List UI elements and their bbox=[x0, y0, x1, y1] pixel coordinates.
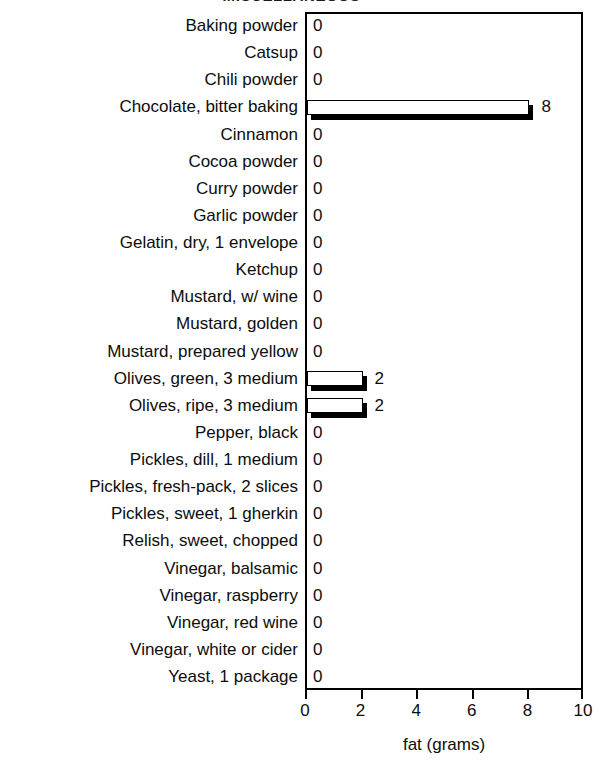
bar-value-label: 0 bbox=[313, 314, 322, 334]
bar-value-label: 0 bbox=[313, 233, 322, 253]
category-label: Mustard, prepared yellow bbox=[0, 342, 298, 362]
x-axis-tick bbox=[305, 690, 307, 699]
category-label: Pepper, black bbox=[0, 423, 298, 443]
bar-value-label: 0 bbox=[313, 586, 322, 606]
category-label: Vinegar, raspberry bbox=[0, 586, 298, 606]
category-label: Curry powder bbox=[0, 179, 298, 199]
bar-track bbox=[307, 93, 529, 121]
bar-row: Pickles, dill, 1 medium0 bbox=[0, 446, 615, 474]
bar-value-label: 0 bbox=[313, 206, 322, 226]
category-label: Olives, green, 3 medium bbox=[0, 369, 298, 389]
category-label: Vinegar, white or cider bbox=[0, 640, 298, 660]
bar-value-label: 0 bbox=[313, 640, 322, 660]
x-axis-title: fat (grams) bbox=[305, 735, 583, 755]
x-axis: 0246810 bbox=[305, 690, 583, 691]
x-axis-tick-label: 8 bbox=[523, 701, 532, 721]
bar-value-label: 0 bbox=[313, 260, 322, 280]
bar-track bbox=[307, 392, 363, 420]
x-axis-tick-label: 0 bbox=[300, 701, 309, 721]
bar-row: Pepper, black0 bbox=[0, 419, 615, 447]
bar-value-label: 0 bbox=[313, 667, 322, 687]
category-label: Cinnamon bbox=[0, 125, 298, 145]
bar-value-label: 0 bbox=[313, 613, 322, 633]
bar-value-label: 0 bbox=[313, 125, 322, 145]
bar-row: Vinegar, white or cider0 bbox=[0, 636, 615, 664]
x-axis-tick bbox=[416, 690, 418, 699]
bar-value-label: 0 bbox=[313, 531, 322, 551]
bar-value-label: 0 bbox=[313, 43, 322, 63]
bar-value-label: 0 bbox=[313, 450, 322, 470]
bar-value-label: 0 bbox=[313, 179, 322, 199]
bar-value-label: 0 bbox=[313, 423, 322, 443]
bar-value-label: 2 bbox=[375, 396, 384, 416]
category-label: Chili powder bbox=[0, 70, 298, 90]
bar bbox=[307, 371, 363, 386]
bar bbox=[307, 100, 529, 115]
bar-row: Vinegar, balsamic0 bbox=[0, 554, 615, 582]
category-label: Baking powder bbox=[0, 16, 298, 36]
category-label: Olives, ripe, 3 medium bbox=[0, 396, 298, 416]
bar-value-label: 2 bbox=[375, 369, 384, 389]
bar-value-label: 0 bbox=[313, 70, 322, 90]
x-axis-tick-label: 6 bbox=[467, 701, 476, 721]
bar-row: Catsup0 bbox=[0, 39, 615, 67]
bar-value-label: 0 bbox=[313, 16, 322, 36]
category-label: Cocoa powder bbox=[0, 152, 298, 172]
bar-value-label: 0 bbox=[313, 287, 322, 307]
category-label: Chocolate, bitter baking bbox=[0, 97, 298, 117]
x-axis-tick-label: 2 bbox=[356, 701, 365, 721]
category-label: Yeast, 1 package bbox=[0, 667, 298, 687]
x-axis-tick-label: 4 bbox=[411, 701, 420, 721]
category-label: Garlic powder bbox=[0, 206, 298, 226]
category-label: Pickles, fresh-pack, 2 slices bbox=[0, 477, 298, 497]
x-axis-tick bbox=[527, 690, 529, 699]
x-axis-tick bbox=[581, 690, 583, 699]
bar-row: Cinnamon0 bbox=[0, 120, 615, 148]
bar-row: Olives, ripe, 3 medium2 bbox=[0, 392, 615, 420]
bar-row: Mustard, w/ wine0 bbox=[0, 283, 615, 311]
bar-row: Ketchup0 bbox=[0, 256, 615, 284]
category-label: Vinegar, red wine bbox=[0, 613, 298, 633]
bar-value-label: 0 bbox=[313, 477, 322, 497]
bar-row: Pickles, fresh-pack, 2 slices0 bbox=[0, 473, 615, 501]
bar-row: Olives, green, 3 medium2 bbox=[0, 365, 615, 393]
category-label: Pickles, dill, 1 medium bbox=[0, 450, 298, 470]
bar-row: Gelatin, dry, 1 envelope0 bbox=[0, 229, 615, 257]
bar-row: Relish, sweet, chopped0 bbox=[0, 527, 615, 555]
bar-row: Mustard, golden0 bbox=[0, 310, 615, 338]
bar bbox=[307, 398, 363, 413]
bar-row: Vinegar, red wine0 bbox=[0, 609, 615, 637]
bar-row: Baking powder0 bbox=[0, 12, 615, 40]
bar-row: Mustard, prepared yellow0 bbox=[0, 337, 615, 365]
bar-value-label: 0 bbox=[313, 504, 322, 524]
category-label: Gelatin, dry, 1 envelope bbox=[0, 233, 298, 253]
bar-row: Chocolate, bitter baking8 bbox=[0, 93, 615, 121]
category-label: Pickles, sweet, 1 gherkin bbox=[0, 504, 298, 524]
bar-row: Curry powder0 bbox=[0, 175, 615, 203]
bar-row: Vinegar, raspberry0 bbox=[0, 582, 615, 610]
category-label: Ketchup bbox=[0, 260, 298, 280]
bar-row: Pickles, sweet, 1 gherkin0 bbox=[0, 500, 615, 528]
bar-rows-container: Baking powder0Catsup0Chili powder0Chocol… bbox=[0, 12, 615, 690]
bar-value-label: 0 bbox=[313, 559, 322, 579]
category-label: Mustard, golden bbox=[0, 314, 298, 334]
bar-row: Chili powder0 bbox=[0, 66, 615, 94]
bar-value-label: 0 bbox=[313, 152, 322, 172]
bar-row: Garlic powder0 bbox=[0, 202, 615, 230]
bar-value-label: 0 bbox=[313, 342, 322, 362]
category-label: Relish, sweet, chopped bbox=[0, 531, 298, 551]
bar-row: Yeast, 1 package0 bbox=[0, 663, 615, 691]
bar-value-label: 8 bbox=[541, 97, 550, 117]
x-axis-tick bbox=[361, 690, 363, 699]
bar-row: Cocoa powder0 bbox=[0, 148, 615, 176]
x-axis-tick-label: 10 bbox=[574, 701, 593, 721]
x-axis-tick bbox=[472, 690, 474, 699]
category-label: Vinegar, balsamic bbox=[0, 559, 298, 579]
bar-track bbox=[307, 365, 363, 393]
category-label: Mustard, w/ wine bbox=[0, 287, 298, 307]
chart-title: MISCELLANEOUS bbox=[0, 0, 583, 4]
category-label: Catsup bbox=[0, 43, 298, 63]
